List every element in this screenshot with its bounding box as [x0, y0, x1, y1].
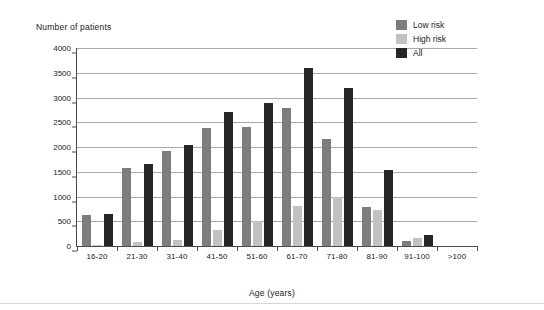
bar — [304, 68, 313, 246]
bar — [282, 108, 291, 246]
bar-group — [77, 48, 117, 246]
x-axis-category-label: >100 — [437, 252, 477, 261]
y-axis-tick-label: 500 — [31, 217, 71, 226]
legend-item-label: High risk — [413, 34, 446, 44]
x-axis-category-label: 31-40 — [157, 252, 197, 261]
x-axis-category-label: 61-70 — [277, 252, 317, 261]
bar — [384, 170, 393, 246]
bar — [264, 103, 273, 246]
bar — [322, 139, 331, 246]
y-axis-title: Number of patients — [36, 22, 111, 32]
bar-group — [357, 48, 397, 246]
x-axis-tick-mark — [277, 246, 278, 251]
x-axis-tick-mark — [77, 246, 78, 251]
x-axis-tick-mark — [397, 246, 398, 251]
y-axis-tick-label: 0 — [31, 242, 71, 251]
figure-bottom-rule — [0, 303, 544, 304]
x-axis-category-label: 71-80 — [317, 252, 357, 261]
x-axis-tick-mark — [317, 246, 318, 251]
chart-figure: Number of patients 050010001500200025003… — [0, 0, 544, 310]
bar — [373, 210, 382, 246]
x-axis-tick-mark — [197, 246, 198, 251]
x-axis-tick-mark — [477, 246, 478, 251]
x-axis-category-label: 41-50 — [197, 252, 237, 261]
bar-group — [397, 48, 437, 246]
legend-swatch-icon — [396, 34, 407, 44]
y-axis-tick-label: 1500 — [31, 167, 71, 176]
x-axis-category-label: 51-60 — [237, 252, 277, 261]
bar — [184, 145, 193, 246]
x-axis-category-label: 16-20 — [77, 252, 117, 261]
legend-item: All — [396, 48, 446, 58]
x-axis-tick-mark — [117, 246, 118, 251]
bar — [82, 215, 91, 246]
x-axis-category-label: 21-30 — [117, 252, 157, 261]
legend-item-label: Low risk — [413, 20, 444, 30]
bar-group — [277, 48, 317, 246]
x-axis-title: Age (years) — [0, 288, 544, 298]
x-axis-category-label: 81-90 — [357, 252, 397, 261]
x-axis-category-label: 91-100 — [397, 252, 437, 261]
bar — [293, 206, 302, 246]
bar — [413, 238, 422, 246]
legend-item: High risk — [396, 34, 446, 44]
y-axis-tick-label: 3500 — [31, 68, 71, 77]
bar — [104, 214, 113, 246]
bar-group — [237, 48, 277, 246]
legend: Low riskHigh riskAll — [396, 20, 446, 58]
legend-item-label: All — [413, 48, 422, 58]
bar-group — [157, 48, 197, 246]
bar — [213, 230, 222, 246]
y-axis-tick-label: 2000 — [31, 143, 71, 152]
x-axis-tick-mark — [237, 246, 238, 251]
legend-item: Low risk — [396, 20, 446, 30]
bar — [122, 168, 131, 246]
x-axis-tick-mark — [437, 246, 438, 251]
bar-group — [197, 48, 237, 246]
legend-swatch-icon — [396, 48, 407, 58]
plot-area — [77, 48, 477, 246]
x-axis-tick-mark — [157, 246, 158, 251]
bar-group — [317, 48, 357, 246]
bar — [224, 112, 233, 246]
bar — [202, 128, 211, 246]
y-axis-tick-label: 2500 — [31, 118, 71, 127]
y-axis-tick-label: 4000 — [31, 44, 71, 53]
bar-group — [117, 48, 157, 246]
bar — [253, 221, 262, 246]
bar-group — [437, 48, 477, 246]
x-axis-tick-mark — [357, 246, 358, 251]
bar — [242, 127, 251, 246]
y-axis-tick-label: 1000 — [31, 192, 71, 201]
bar — [162, 151, 171, 246]
x-axis-category-labels: 16-2021-3031-4041-5051-6061-7071-8081-90… — [77, 252, 477, 261]
bar — [362, 207, 371, 246]
bar-groups — [77, 48, 477, 246]
bar — [144, 164, 153, 246]
bar — [424, 235, 433, 246]
bar — [333, 197, 342, 247]
legend-swatch-icon — [396, 20, 407, 30]
bar — [344, 88, 353, 246]
y-axis-tick-label: 3000 — [31, 93, 71, 102]
